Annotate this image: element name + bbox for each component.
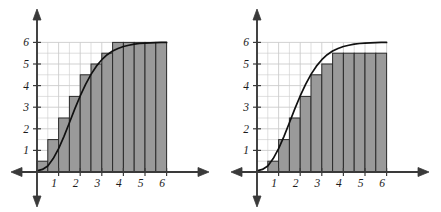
x-axis-arrow-left <box>11 168 22 177</box>
riemann-bar <box>48 140 59 172</box>
y-axis-arrow-down <box>253 196 261 207</box>
riemann-bars <box>268 53 387 172</box>
x-axis-arrow-right <box>198 168 209 177</box>
y-tick-label: 3 <box>242 101 249 113</box>
y-tick-label: 2 <box>243 123 249 135</box>
x-tick-label: 4 <box>116 177 122 189</box>
riemann-bar <box>300 96 311 172</box>
y-tick-label: 6 <box>243 36 249 48</box>
y-tick-label: 3 <box>22 101 29 113</box>
riemann-bar <box>113 42 124 172</box>
riemann-bar <box>91 64 102 172</box>
x-tick-label: 3 <box>93 177 100 189</box>
x-tick-label: 1 <box>51 177 57 189</box>
y-tick-label: 4 <box>23 80 29 92</box>
riemann-bar <box>80 75 91 172</box>
figure-pair-canvas: 123456123456 123456123456 <box>0 0 441 212</box>
riemann-bar <box>145 42 156 172</box>
riemann-bar <box>123 42 134 172</box>
x-tick-label: 2 <box>293 177 299 189</box>
riemann-bar <box>333 53 344 172</box>
x-axis-arrow-right <box>418 168 429 177</box>
x-tick-label: 1 <box>271 177 277 189</box>
y-tick-label: 5 <box>243 58 249 70</box>
x-tick-label: 6 <box>379 177 385 189</box>
x-tick-label: 6 <box>159 177 165 189</box>
y-axis-arrow-down <box>33 196 41 207</box>
riemann-bar <box>365 53 376 172</box>
riemann-figure-left: 123456123456 <box>0 0 221 212</box>
riemann-bar <box>134 42 145 172</box>
y-tick-label: 5 <box>23 58 29 70</box>
riemann-bar <box>322 64 333 172</box>
riemann-bar <box>354 53 365 172</box>
y-tick-label: 6 <box>23 36 29 48</box>
riemann-bar <box>343 53 354 172</box>
riemann-bar <box>376 53 387 172</box>
x-tick-label: 4 <box>336 177 342 189</box>
riemann-bar <box>289 118 300 172</box>
y-tick-label: 4 <box>243 80 249 92</box>
riemann-bar <box>102 53 113 172</box>
x-tick-label: 3 <box>313 177 320 189</box>
y-axis-arrow-up <box>33 9 41 20</box>
y-tick-label: 2 <box>23 123 29 135</box>
x-tick-label: 5 <box>358 177 364 189</box>
y-tick-label: 1 <box>243 144 249 156</box>
riemann-bar <box>311 75 322 172</box>
y-axis-arrow-up <box>253 9 261 20</box>
x-tick-label: 2 <box>73 177 79 189</box>
x-tick-label: 5 <box>138 177 144 189</box>
x-axis-arrow-left <box>231 168 242 177</box>
riemann-figure-right: 123456123456 <box>220 0 441 212</box>
y-tick-label: 1 <box>23 144 29 156</box>
riemann-bar <box>156 42 167 172</box>
